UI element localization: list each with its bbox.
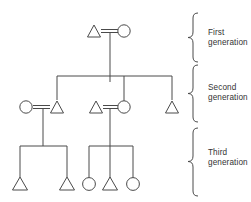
symbol-female-II-4	[118, 101, 130, 113]
symbol-male-II-3	[90, 101, 103, 113]
brace-second-generation	[188, 65, 198, 122]
brace-first-generation	[188, 13, 198, 62]
symbol-female-III-3	[83, 178, 96, 191]
symbol-male-III-2	[60, 177, 75, 190]
symbol-male-III-1	[13, 177, 28, 190]
first-generation-label: First generation	[208, 28, 248, 48]
brace-third-generation	[188, 128, 198, 196]
symbol-male-II-5	[166, 101, 179, 113]
symbol-female-I-2	[118, 25, 130, 37]
symbol-male-III-4	[103, 177, 118, 190]
symbol-male-I-1	[88, 25, 101, 37]
symbol-male-II-2	[51, 101, 64, 113]
symbol-female-III-5	[127, 178, 140, 191]
pedigree-chart: First generation Second generation Third…	[0, 0, 251, 202]
symbol-female-II-1	[20, 101, 32, 113]
second-generation-label: Second generation	[208, 83, 248, 103]
third-generation-label: Third generation	[208, 148, 248, 168]
